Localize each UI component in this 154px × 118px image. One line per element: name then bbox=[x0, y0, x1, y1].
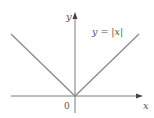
x-axis-arrow-icon bbox=[136, 94, 143, 99]
y-axis-arrow-icon bbox=[73, 12, 78, 19]
y-axis-label: y bbox=[65, 11, 72, 22]
function-label: y = |x| bbox=[91, 26, 123, 38]
x-axis-label: x bbox=[143, 100, 149, 111]
origin-label: 0 bbox=[64, 101, 70, 111]
absolute-value-graph: y x 0 y = |x| bbox=[0, 0, 154, 118]
